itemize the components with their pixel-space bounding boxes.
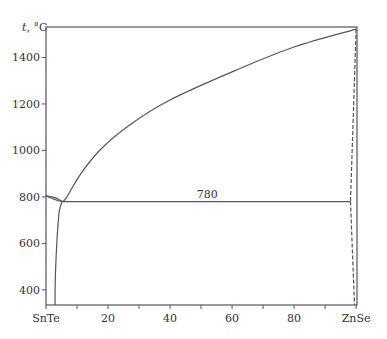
x-tick-label: 80 bbox=[287, 312, 301, 325]
plot-frame bbox=[46, 27, 357, 305]
y-tick-label: 600 bbox=[19, 237, 40, 250]
y-tick-label: 800 bbox=[19, 191, 40, 204]
x-tick-label: 60 bbox=[225, 312, 239, 325]
series-liquidus-ZnSe bbox=[62, 29, 356, 202]
y-axis-title-unit: , °C bbox=[26, 21, 47, 34]
y-tick-label: 400 bbox=[19, 284, 40, 297]
series-solidus-SnTe bbox=[46, 196, 62, 202]
eutectic-temperature-label: 780 bbox=[197, 188, 218, 201]
series-solvus-ZnSe-lower bbox=[351, 202, 355, 305]
y-tick-label: 1000 bbox=[12, 144, 40, 157]
x-tick-label: ZnSe bbox=[342, 312, 371, 325]
x-tick-label: 40 bbox=[163, 312, 177, 325]
y-tick-label: 1400 bbox=[12, 51, 40, 64]
phase-diagram: SnTe20406080ZnSe400600800100012001400780… bbox=[0, 0, 387, 339]
series-solvus-ZnSe-upper bbox=[351, 29, 357, 202]
x-tick-label: SnTe bbox=[32, 312, 60, 325]
y-axis-title: t, °C bbox=[22, 21, 47, 34]
y-tick-label: 1200 bbox=[12, 98, 40, 111]
series-solvus-SnTe bbox=[55, 202, 62, 305]
x-tick-label: 20 bbox=[101, 312, 115, 325]
